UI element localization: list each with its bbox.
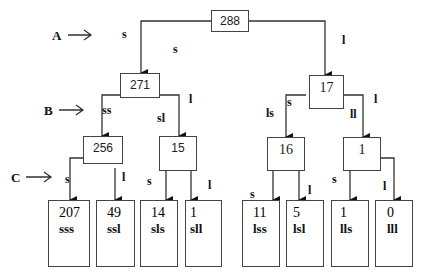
node-17: 17: [309, 75, 344, 109]
edge-label: l: [208, 178, 211, 193]
node-value: 17: [310, 80, 343, 96]
leaf-code: sls: [151, 221, 165, 237]
node-value: 288: [212, 14, 248, 28]
leaf-value: 1: [186, 205, 221, 221]
leaf-code: lll: [387, 221, 398, 237]
edge-label: sl: [157, 111, 165, 126]
leaf-lls: 1 lls: [331, 200, 369, 267]
node-271: 271: [120, 73, 160, 98]
edge-label: ls: [266, 106, 274, 121]
edge-label: l: [383, 179, 386, 194]
level-label-c: C: [11, 170, 20, 186]
leaf-code: lss: [253, 221, 267, 237]
leaf-value: 14: [141, 205, 177, 221]
level-label-a: A: [52, 28, 61, 44]
leaf-code: lsl: [293, 221, 305, 237]
edge-label: l: [308, 183, 311, 198]
leaf-code: sll: [190, 221, 202, 237]
node-value: 15: [160, 141, 196, 155]
node-15: 15: [159, 136, 197, 171]
edge-label: s: [332, 172, 337, 187]
leaf-value: 1: [332, 205, 368, 221]
edge-label: s: [65, 172, 70, 187]
node-1: 1: [343, 137, 381, 171]
leaf-value: 11: [243, 205, 279, 221]
edge-label: s: [122, 27, 127, 42]
leaf-lll: 0 lll: [375, 200, 413, 267]
node-value: 271: [121, 78, 159, 92]
node-value: 16: [268, 142, 304, 158]
node-value: 1: [344, 142, 380, 158]
leaf-ssl: 49 ssl: [96, 200, 135, 267]
node-value: 256: [84, 141, 122, 155]
node-root: 288: [211, 10, 249, 32]
leaf-sss: 207 sss: [48, 200, 90, 267]
edge-label: ll: [350, 107, 357, 122]
leaf-code: ssl: [107, 221, 121, 237]
tree-diagram: A B C 288 271 17 256 15 16 1 207 sss 49 …: [0, 0, 423, 279]
edge-label: l: [122, 170, 125, 185]
leaf-value: 0: [376, 205, 412, 221]
leaf-value: 207: [49, 205, 89, 221]
leaf-value: 49: [97, 205, 134, 221]
edge-label: s: [147, 174, 152, 189]
leaf-lss: 11 lss: [242, 200, 280, 267]
edge-label: s: [173, 42, 178, 57]
leaf-sll: 1 sll: [185, 200, 222, 267]
node-256: 256: [83, 136, 123, 164]
leaf-code: sss: [59, 221, 74, 237]
edge-label: s: [287, 95, 292, 110]
edge-label: ss: [102, 103, 111, 118]
leaf-value: 5: [287, 205, 323, 221]
edge-label: l: [374, 92, 377, 107]
leaf-lsl: 5 lsl: [286, 200, 324, 267]
level-label-b: B: [44, 103, 53, 119]
node-16: 16: [267, 137, 305, 171]
edge-label: l: [189, 92, 192, 107]
leaf-sls: 14 sls: [140, 200, 178, 267]
leaf-code: lls: [340, 221, 352, 237]
edge-label: s: [250, 187, 255, 202]
edge-label: l: [342, 33, 345, 48]
